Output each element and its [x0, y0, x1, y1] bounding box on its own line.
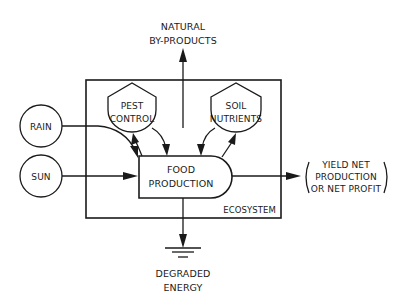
soil-to-food-arrowhead-icon [197, 144, 205, 156]
natural-byproducts-line1: NATURAL [161, 21, 206, 32]
soil-nutrients-line2: NUTRIENTS [210, 114, 262, 124]
rain-label: RAIN [30, 122, 52, 132]
food-production-line1: FOOD [167, 164, 195, 175]
degraded-arrowhead-icon [179, 234, 187, 248]
rain-to-food-arrow [62, 126, 136, 152]
ground-symbol-icon [165, 248, 201, 257]
food-to-soil-arrow [222, 142, 232, 157]
degraded-energy-line1: DEGRADED [156, 268, 211, 279]
degraded-energy-sink: DEGRADED ENERGY [156, 198, 211, 293]
food-to-soil-arrowhead-icon [228, 133, 236, 145]
soil-nutrients-line1: SOIL [226, 101, 247, 111]
pest-control-storage: PEST CONTROL [108, 83, 170, 156]
pest-control-line1: PEST [121, 101, 144, 111]
rain-source: RAIN [20, 105, 138, 158]
ecosystem-label: ECOSYSTEM [223, 205, 276, 215]
yield-line2: PRODUCTION [315, 172, 377, 182]
rain-arrowhead-icon [130, 146, 138, 158]
yield-line3: OR NET PROFIT [311, 184, 382, 194]
pest-to-food-arrowhead-icon [162, 144, 170, 156]
sun-source: SUN [20, 155, 138, 197]
yield-output: YIELD NET PRODUCTION OR NET PROFIT [232, 160, 387, 194]
food-production-producer: FOOD PRODUCTION [139, 156, 232, 198]
sun-arrowhead-icon [123, 172, 138, 180]
ecosystem-diagram: ECOSYSTEM NATURAL BY-PRODUCTS RAIN SUN P… [0, 0, 404, 303]
yield-left-paren [306, 162, 309, 193]
degraded-energy-line2: ENERGY [163, 282, 202, 293]
yield-arrowhead-icon [286, 172, 301, 180]
food-production-line2: PRODUCTION [149, 178, 214, 189]
natural-byproducts-line2: BY-PRODUCTS [149, 35, 217, 46]
yield-right-paren [384, 162, 387, 193]
natural-byproducts: NATURAL BY-PRODUCTS [149, 21, 217, 128]
sun-label: SUN [31, 172, 50, 182]
soil-nutrients-storage: SOIL NUTRIENTS [197, 83, 262, 157]
byproducts-arrowhead-icon [179, 48, 187, 62]
yield-line1: YIELD NET [321, 160, 370, 170]
pest-control-line2: CONTROL [110, 114, 155, 124]
food-to-pest-arrowhead-icon [131, 133, 139, 145]
